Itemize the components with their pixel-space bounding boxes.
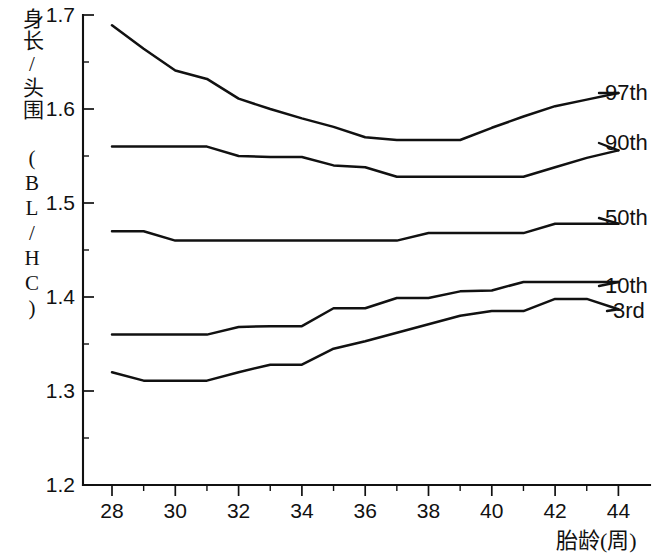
curve-3rd [112,299,618,381]
chart-container: 身长/头围 (BL/HC) 胎龄(周) 1.21.31.41.51.61.7 2… [0,0,669,560]
series-label-10th: 10th [605,275,648,297]
series-curves [112,25,618,380]
y-tick-labels: 1.21.31.41.51.61.7 [46,3,76,496]
series-label-50th: 50th [605,207,648,229]
x-tick-label: 34 [290,499,314,522]
y-tick-label: 1.4 [46,285,76,308]
y-tick-label: 1.6 [46,97,75,120]
chart-plot-area: 1.21.31.41.51.61.7 283032343638404244 [0,0,669,560]
x-tick-labels: 283032343638404244 [100,499,630,522]
x-tick-label: 38 [417,499,440,522]
y-tick-label: 1.5 [46,191,75,214]
series-label-97th: 97th [605,82,648,104]
curve-10th [112,282,618,335]
x-tick-label: 30 [164,499,187,522]
x-tick-label: 28 [100,499,123,522]
axis-ticks [83,15,618,496]
series-label-3rd: 3rd [613,300,645,322]
curve-90th [112,147,618,177]
series-label-90th: 90th [605,132,648,154]
x-tick-label: 42 [543,499,566,522]
x-tick-label: 32 [227,499,250,522]
x-tick-label: 36 [354,499,377,522]
axes [83,15,650,485]
curve-50th [112,224,618,241]
y-tick-label: 1.7 [46,3,75,26]
x-tick-label: 40 [480,499,503,522]
y-tick-label: 1.2 [46,473,75,496]
y-tick-label: 1.3 [46,379,75,402]
x-tick-label: 44 [607,499,631,522]
curve-97th [112,25,618,140]
